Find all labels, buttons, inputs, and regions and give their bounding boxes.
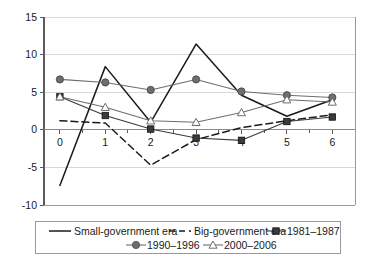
x-tick-label-5: 5 [284,136,290,148]
y-tick-label-15: 15 [25,11,37,23]
series-marker-1990-1996-3 [192,76,199,83]
y-tick-label-10: 10 [25,48,37,60]
y-tick-label-0: 0 [31,123,37,135]
series-marker-1981-1987-6 [329,114,335,120]
x-tick-label-1: 1 [102,136,108,148]
legend-swatch-1990-1996 [132,241,139,248]
legend-label-1990-1996: 1990–1996 [147,239,200,251]
series-marker-1981-1987-5 [284,118,290,124]
legend-swatch-1981-1987 [273,228,279,234]
line-chart: 151050-5-100123456Small-government eraBi… [0,0,372,257]
y-tick-label--10: -10 [22,199,37,211]
x-tick-label-6: 6 [329,136,335,148]
series-marker-1990-1996-0 [56,76,63,83]
x-tick-label-2: 2 [148,136,154,148]
x-tick-label-0: 0 [57,136,63,148]
series-marker-1990-1996-4 [238,88,245,95]
series-marker-1981-1987-2 [147,126,153,132]
series-marker-1981-1987-1 [102,112,108,118]
series-marker-1981-1987-4 [238,137,244,143]
series-marker-1981-1987-3 [193,135,199,141]
legend-label-2000-2006: 2000–2006 [224,239,277,251]
series-line-small-government-era [60,44,332,185]
series-marker-1990-1996-2 [147,86,154,93]
legend-label-small-government-era: Small-government era [74,225,177,237]
chart-container: 151050-5-100123456Small-government eraBi… [0,0,372,257]
y-tick-label--5: -5 [28,161,37,173]
legend-label-1981-1987: 1981–1987 [287,225,340,237]
y-tick-label-5: 5 [31,86,37,98]
series-marker-1990-1996-1 [102,79,109,86]
